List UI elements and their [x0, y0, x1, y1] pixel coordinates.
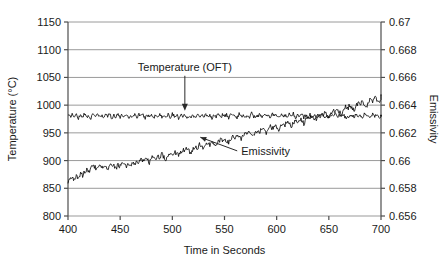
y-axis-tick-label: 1150: [37, 16, 61, 28]
y2-axis-tick-label: 0.656: [389, 210, 417, 222]
y2-axis-tick-label: 0.658: [389, 182, 417, 194]
y2-axis-tick-label: 0.668: [389, 44, 417, 56]
annotation-label-emissivity: Emissivity: [241, 145, 290, 157]
y-axis-tick-label: 950: [43, 127, 61, 139]
y-axis-tick-label: 900: [43, 155, 61, 167]
y2-axis-title: Emissivity: [428, 95, 440, 144]
chart-figure: 400450500550600650700 800850900950100010…: [0, 0, 442, 269]
annotation-label-temperature: Temperature (OFT): [138, 61, 232, 73]
y2-axis-tick-label: 0.664: [389, 99, 417, 111]
x-axis-tick-label: 450: [111, 223, 129, 235]
y-axis-title: Temperature (°C): [6, 77, 18, 161]
x-axis-title: Time in Seconds: [184, 244, 266, 256]
chart-canvas: 400450500550600650700 800850900950100010…: [0, 0, 442, 269]
x-axis-tick-label: 400: [59, 223, 77, 235]
x-axis-tick-label: 600: [267, 223, 285, 235]
y-axis-tick-label: 1050: [37, 71, 61, 83]
y2-axis-tick-label: 0.66: [389, 155, 410, 167]
y-axis-tick-label: 800: [43, 210, 61, 222]
y2-axis-tick-label: 0.666: [389, 71, 417, 83]
x-axis-tick-label: 550: [215, 223, 233, 235]
x-axis-tick-label: 700: [372, 223, 390, 235]
y-axis-tick-label: 1000: [37, 99, 61, 111]
y2-axis-tick-label: 0.662: [389, 127, 417, 139]
y2-axis-tick-label: 0.67: [389, 16, 410, 28]
y-axis-tick-label: 1100: [37, 44, 61, 56]
x-axis-tick-label: 500: [163, 223, 181, 235]
y-axis-tick-label: 850: [43, 182, 61, 194]
x-axis-tick-label: 650: [320, 223, 338, 235]
